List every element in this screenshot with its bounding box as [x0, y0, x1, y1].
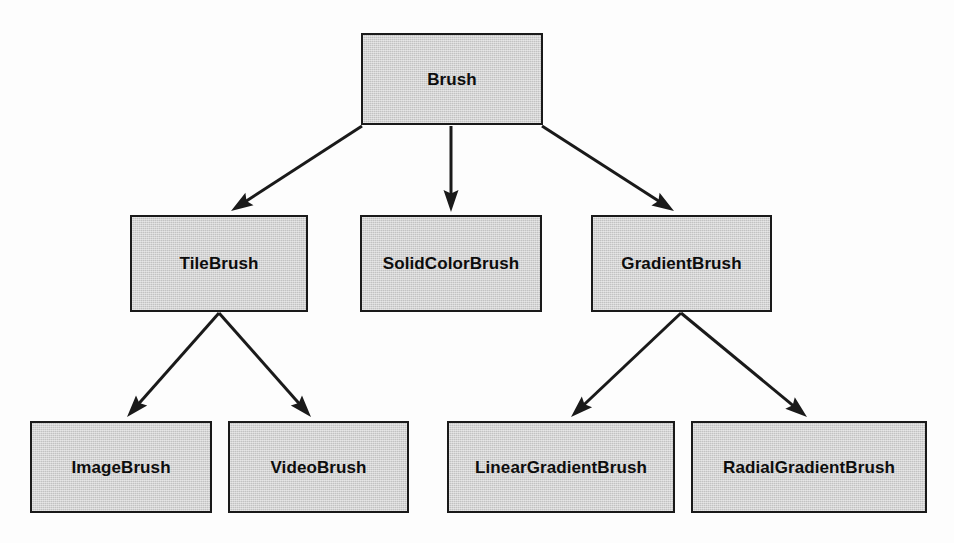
node-label: TileBrush [180, 255, 259, 272]
node-radialgradientbrush[interactable]: RadialGradientBrush [691, 421, 927, 513]
edge-brush-to-tilebrush [231, 126, 362, 211]
node-solidcolorbrush[interactable]: SolidColorBrush [360, 215, 542, 312]
edge-line [138, 313, 219, 405]
node-label: Brush [427, 71, 477, 88]
node-label: SolidColorBrush [383, 255, 520, 272]
edge-line [244, 126, 362, 202]
node-lineargradientbrush[interactable]: LinearGradientBrush [447, 421, 675, 513]
node-imagebrush[interactable]: ImageBrush [30, 421, 212, 513]
node-brush[interactable]: Brush [361, 33, 543, 125]
edge-line [583, 313, 681, 406]
edge-arrowhead [231, 193, 254, 211]
node-label: GradientBrush [621, 255, 741, 272]
edge-line [219, 313, 300, 405]
edge-brush-to-solidcolorbrush [444, 126, 459, 212]
edge-line [542, 126, 661, 202]
node-tilebrush[interactable]: TileBrush [130, 215, 308, 312]
edge-tilebrush-to-imagebrush [127, 313, 219, 417]
edge-line [681, 313, 795, 407]
edge-gradientbrush-to-lineargradientbrush [571, 313, 681, 417]
node-gradientbrush[interactable]: GradientBrush [591, 215, 772, 312]
node-videobrush[interactable]: VideoBrush [228, 421, 409, 513]
class-hierarchy-diagram: BrushTileBrushSolidColorBrushGradientBru… [0, 0, 954, 543]
node-label: ImageBrush [71, 459, 170, 476]
edge-tilebrush-to-videobrush [219, 313, 311, 417]
node-label: LinearGradientBrush [475, 459, 647, 476]
edge-brush-to-gradientbrush [542, 126, 674, 211]
node-label: RadialGradientBrush [723, 459, 895, 476]
edge-gradientbrush-to-radialgradientbrush [681, 313, 807, 417]
node-label: VideoBrush [270, 459, 366, 476]
edge-arrowhead [651, 193, 674, 211]
